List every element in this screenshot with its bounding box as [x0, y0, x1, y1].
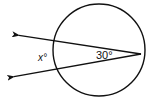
inscribed-angle-label: 30°	[96, 49, 113, 61]
lower-secant-ray	[14, 54, 141, 77]
exterior-angle-label: x°	[37, 52, 47, 63]
diagram-canvas: x° 30°	[0, 0, 154, 101]
